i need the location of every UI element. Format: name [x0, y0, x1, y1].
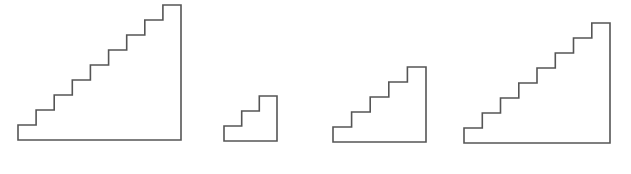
- staircase-diagram: [0, 0, 631, 174]
- staircase-9: [18, 5, 181, 140]
- staircases-group: [18, 5, 610, 143]
- staircase-8: [464, 23, 610, 143]
- staircase-5: [333, 67, 426, 142]
- staircase-3: [224, 96, 277, 141]
